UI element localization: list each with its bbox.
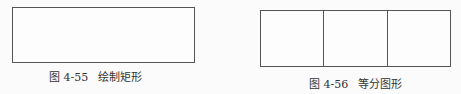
divider-line-1: [323, 11, 324, 66]
figure-4-56: 图 4-56等分图形: [0, 0, 461, 94]
figure-title: 等分图形: [358, 78, 402, 91]
figure-number: 图 4-56: [309, 78, 348, 91]
divided-rectangle: [260, 10, 451, 67]
figure-caption: 图 4-56等分图形: [309, 75, 402, 91]
divider-line-2: [387, 11, 388, 66]
